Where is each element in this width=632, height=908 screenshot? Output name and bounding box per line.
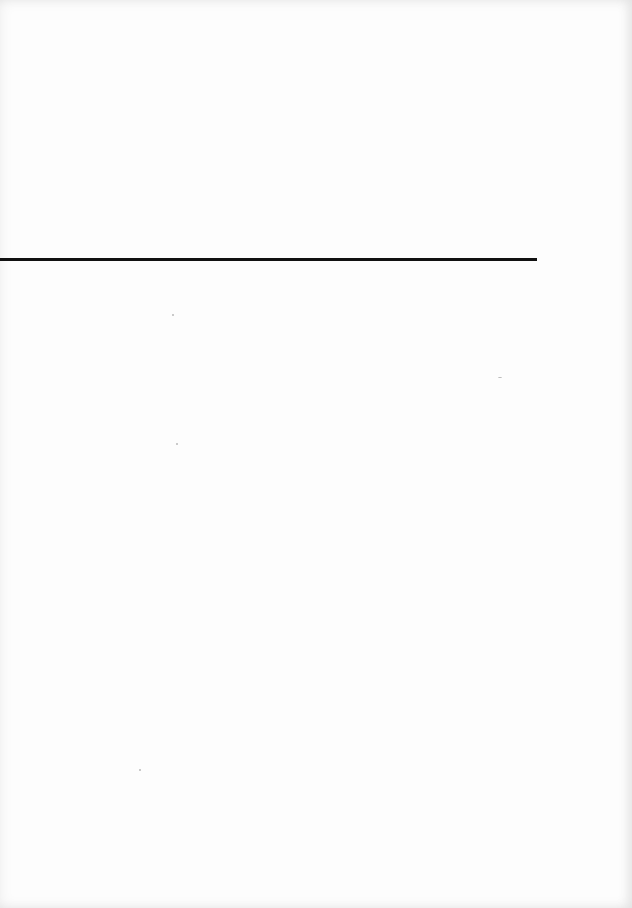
scan-speck	[139, 769, 141, 771]
horizontal-rule	[0, 258, 537, 261]
scan-speck	[498, 377, 502, 378]
scan-speck	[176, 443, 178, 445]
blank-document-page	[0, 0, 632, 908]
scan-speck	[172, 314, 174, 316]
